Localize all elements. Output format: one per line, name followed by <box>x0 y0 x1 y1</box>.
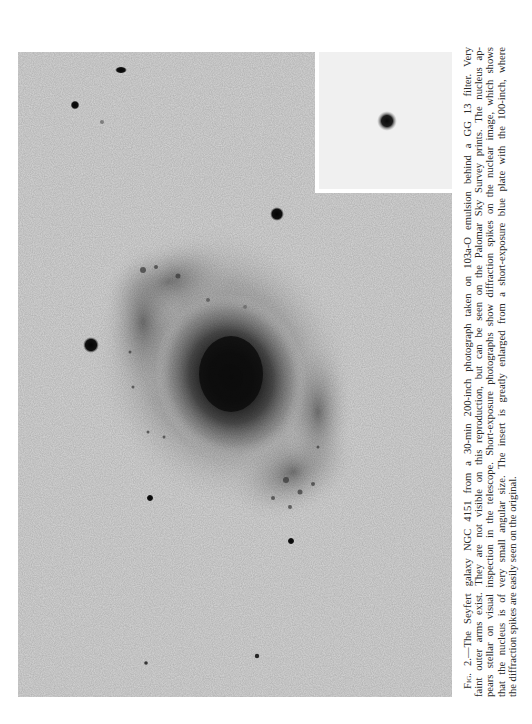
caption-line-3: pears stellar on visual inspection in th… <box>484 47 495 697</box>
nucleus-inset <box>315 52 452 193</box>
caption-line-1: Fig. 2.—The Seyfert galaxy NGC 4151 from… <box>462 47 473 697</box>
caption-line-2: faint outer arms exist. They are not vis… <box>473 47 484 697</box>
figure-caption: Fig. 2.—The Seyfert galaxy NGC 4151 from… <box>462 47 518 697</box>
inset-panel <box>319 52 452 189</box>
caption-line-5: the diffraction spikes are easily seen o… <box>507 47 518 697</box>
caption-line-4: that the nucleus is of very small angula… <box>496 47 507 697</box>
galaxy-photograph <box>18 52 452 697</box>
nucleus-image <box>319 52 452 189</box>
figure-label: Fig. 2. <box>462 658 473 689</box>
